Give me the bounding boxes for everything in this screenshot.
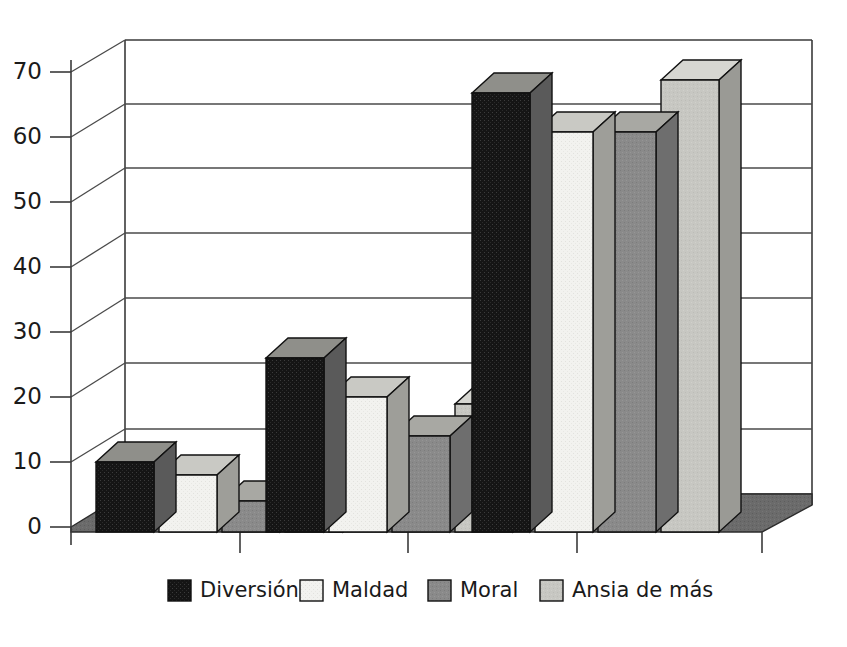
x-axis: [240, 532, 762, 553]
depth-connector-20: [71, 363, 125, 397]
bar-side-face: [324, 338, 346, 532]
y-tick-label-30: 30: [13, 318, 42, 344]
chart-root: 70 60 50 40 30 20 10 0: [0, 0, 847, 647]
y-tick-label-10: 10: [13, 448, 42, 474]
y-tick-label-50: 50: [13, 188, 42, 214]
depth-connector-50: [71, 168, 125, 202]
bar-side-face: [387, 377, 409, 532]
legend-item-maldad[interactable]: Maldad: [300, 578, 408, 602]
bar-g3-diversion: [472, 73, 552, 532]
legend-label-moral: Moral: [460, 578, 518, 602]
bar-side-face: [593, 112, 615, 532]
y-tick-label-20: 20: [13, 383, 42, 409]
bar-g1-diversion: [96, 442, 176, 532]
legend-item-ansia-de-mas[interactable]: Ansia de más: [540, 578, 713, 602]
y-tick-label-0: 0: [27, 513, 42, 539]
bar-front-face: [96, 462, 154, 532]
y-axis: 70 60 50 40 30 20 10 0: [13, 58, 71, 546]
depth-connector-40: [71, 233, 125, 267]
bar-g2-diversion: [266, 338, 346, 532]
legend-swatch-moral: [428, 580, 451, 601]
bar-front-face: [266, 358, 324, 532]
legend-label-ansia-de-mas: Ansia de más: [572, 578, 713, 602]
y-tick-label-60: 60: [13, 123, 42, 149]
bar-side-face: [450, 416, 472, 532]
depth-connector-70: [71, 40, 125, 72]
depth-connector-60: [71, 104, 125, 137]
depth-connector-30: [71, 298, 125, 332]
legend-swatch-diversion: [168, 580, 191, 601]
bar-side-face: [656, 112, 678, 532]
legend-item-diversion[interactable]: Diversión: [168, 578, 299, 602]
legend-swatch-ansia-de-mas: [540, 580, 563, 601]
bar-side-face: [719, 60, 741, 532]
bar-side-face: [530, 73, 552, 532]
bar-group-3: [472, 60, 741, 532]
legend-label-diversion: Diversión: [200, 578, 299, 602]
y-tick-label-40: 40: [13, 253, 42, 279]
legend-label-maldad: Maldad: [332, 578, 408, 602]
y-tick-label-70: 70: [13, 58, 42, 84]
chart-legend: Diversión Maldad Moral Ansia de más: [168, 578, 713, 602]
bar-chart-3d: 70 60 50 40 30 20 10 0: [0, 0, 847, 647]
bar-front-face: [472, 93, 530, 532]
legend-item-moral[interactable]: Moral: [428, 578, 518, 602]
legend-swatch-maldad: [300, 580, 323, 601]
